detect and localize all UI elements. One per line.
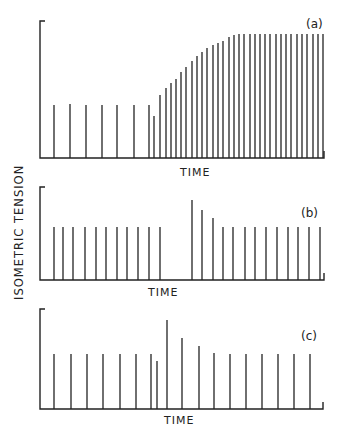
twitch-tension-figure: ISOMETRIC TENSION (a) TIME (b) TIME (c) … xyxy=(0,0,338,444)
panel-a: (a) TIME xyxy=(40,17,324,179)
panel-b-bars xyxy=(54,200,320,280)
y-axis-label-text: ISOMETRIC TENSION xyxy=(12,165,26,300)
panel-b: (b) TIME xyxy=(40,187,324,299)
panel-b-label: (b) xyxy=(301,206,318,220)
panel-c-label: (c) xyxy=(301,329,317,343)
panel-a-xlabel: TIME xyxy=(179,166,210,179)
panel-b-axes xyxy=(40,187,324,280)
panel-a-label: (a) xyxy=(306,17,323,31)
y-axis-label: ISOMETRIC TENSION xyxy=(12,165,26,300)
panel-a-bars xyxy=(54,34,323,158)
panel-c: (c) TIME xyxy=(40,309,323,427)
panel-b-xlabel: TIME xyxy=(147,286,178,299)
panel-c-bars xyxy=(54,320,310,409)
panel-c-xlabel: TIME xyxy=(163,414,194,427)
